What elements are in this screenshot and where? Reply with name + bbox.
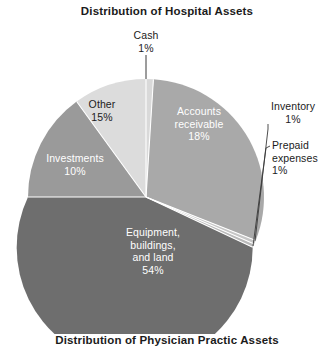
slice-label-cash: Cash 1% (106, 29, 186, 54)
slice-label-investments-value: 10% (31, 165, 119, 178)
slice-label-inventory: Inventory 1% (257, 100, 329, 125)
pie-chart: Cash 1% Other 15% Accounts receivable 18… (0, 0, 334, 334)
slice-label-accounts-receivable-line1: Accounts (161, 105, 237, 118)
slice-label-other-name: Other (71, 98, 133, 111)
chart-caption: Distribution of Physician Practic Assets (0, 334, 334, 346)
slice-label-cash-name: Cash (106, 29, 186, 42)
slice-label-cash-value: 1% (106, 42, 186, 55)
slice-label-equipment-value: 54% (101, 264, 205, 277)
slice-label-inventory-value: 1% (257, 113, 329, 126)
slice-label-prepaid-line2: expenses (272, 152, 334, 165)
slice-label-investments-name: Investments (31, 152, 119, 165)
slice-label-equipment-line1: Equipment, (101, 226, 205, 239)
slice-label-equipment-line3: and land (101, 251, 205, 264)
slice-label-investments: Investments 10% (31, 152, 119, 177)
slice-label-other: Other 15% (71, 98, 133, 123)
slice-label-equipment-buildings-land: Equipment, buildings, and land 54% (101, 226, 205, 276)
slice-label-prepaid-line1: Prepaid (272, 139, 334, 152)
slice-label-accounts-receivable: Accounts receivable 18% (161, 105, 237, 143)
slice-label-equipment-line2: buildings, (101, 239, 205, 252)
slice-label-prepaid-expenses: Prepaid expenses 1% (272, 139, 334, 177)
slice-label-accounts-receivable-line2: receivable (161, 118, 237, 131)
slice-label-inventory-name: Inventory (257, 100, 329, 113)
slice-label-prepaid-value: 1% (272, 164, 334, 177)
slice-label-accounts-receivable-value: 18% (161, 130, 237, 143)
slice-label-other-value: 15% (71, 111, 133, 124)
